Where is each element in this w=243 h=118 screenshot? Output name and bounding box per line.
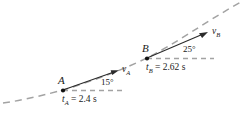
time-label-a: tA = 2.4 s (62, 95, 97, 106)
point-label-b: B (142, 43, 149, 54)
velocity-label-b: vB (212, 27, 220, 38)
time-label-b: tB = 2.62 s (146, 63, 185, 74)
velocity-a-subscript: A (126, 69, 130, 76)
velocity-arrowhead-a (111, 70, 119, 75)
angle-label-b: 25° (183, 45, 196, 54)
point-marker-b (145, 56, 149, 60)
velocity-arrowhead-b (199, 32, 208, 38)
time-a-value: = 2.4 s (69, 94, 97, 104)
figure-canvas (0, 0, 243, 118)
point-marker-a (61, 88, 65, 92)
point-label-a: A (58, 75, 65, 86)
velocity-label-a: vA (122, 65, 130, 76)
time-b-value: = 2.62 s (153, 62, 186, 72)
trajectory-figure: A B 15° 25° vA vB tA = 2.4 s tB = 2.62 s (0, 0, 243, 118)
velocity-b-subscript: B (216, 31, 220, 38)
angle-label-a: 15° (101, 78, 114, 87)
trajectory-curve (3, 2, 241, 103)
